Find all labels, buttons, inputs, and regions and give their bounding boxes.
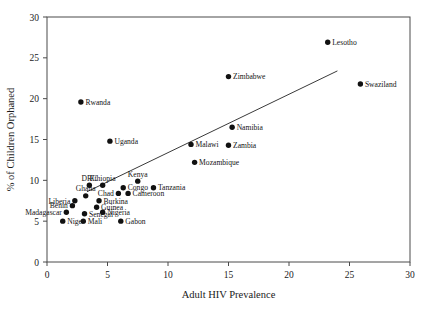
- point-label: Madagascar: [25, 208, 62, 217]
- point-marker: [107, 138, 112, 143]
- point-label: Lesotho: [332, 38, 357, 47]
- point-marker: [192, 160, 197, 165]
- point-marker: [82, 211, 87, 216]
- data-point: Mozambique: [192, 158, 240, 167]
- point-marker: [81, 218, 86, 223]
- data-point: Rwanda: [78, 98, 111, 107]
- point-marker: [226, 74, 231, 79]
- x-axis: 051015202530: [45, 262, 415, 280]
- point-label: Swaziland: [365, 80, 397, 89]
- point-label: Mozambique: [199, 158, 240, 167]
- point-label: Cameroon: [133, 189, 165, 198]
- point-label: Rwanda: [85, 98, 111, 107]
- data-point: Zimbabwe: [226, 72, 266, 81]
- point-label: Namibia: [237, 123, 264, 132]
- data-point: Uganda: [107, 137, 138, 146]
- point-marker: [78, 99, 83, 104]
- point-marker: [188, 142, 193, 147]
- data-point: Swaziland: [358, 80, 397, 89]
- point-marker: [100, 183, 105, 188]
- point-label: Zambia: [233, 141, 257, 150]
- point-marker: [100, 209, 105, 214]
- x-tick-label: 30: [405, 270, 415, 280]
- y-axis: 051015202530: [30, 13, 48, 268]
- data-point: Zambia: [226, 141, 257, 150]
- x-tick-label: 15: [224, 270, 234, 280]
- x-axis-title: Adult HIV Prevalence: [182, 289, 276, 300]
- point-marker: [125, 191, 130, 196]
- point-marker: [70, 203, 75, 208]
- y-tick-label: 10: [30, 176, 40, 186]
- regression-line: [87, 71, 337, 192]
- y-tick-label: 15: [30, 135, 40, 145]
- point-label: Ethiopia: [90, 174, 116, 183]
- point-marker: [118, 218, 123, 223]
- point-marker: [226, 143, 231, 148]
- point-label: Nigeria: [107, 208, 130, 217]
- x-tick-label: 0: [45, 270, 50, 280]
- point-marker: [325, 40, 330, 45]
- point-label: Mali: [88, 217, 102, 226]
- y-tick-label: 0: [34, 258, 39, 268]
- data-point: Lesotho: [325, 38, 357, 47]
- x-tick-label: 20: [284, 270, 294, 280]
- point-label: Gabon: [125, 217, 145, 226]
- y-tick-label: 20: [30, 94, 40, 104]
- chart-canvas: 051015202530 051015202530 LesothoSwazila…: [0, 0, 429, 316]
- point-label: Kenya: [128, 170, 148, 179]
- data-point: Namibia: [229, 123, 263, 132]
- data-point: Malawi: [188, 140, 218, 149]
- point-marker: [60, 218, 65, 223]
- point-label: Zimbabwe: [233, 72, 266, 81]
- trendline: [87, 71, 337, 192]
- point-label: Malawi: [195, 140, 218, 149]
- x-tick-label: 10: [163, 270, 173, 280]
- point-marker: [72, 198, 77, 203]
- x-tick-label: 5: [105, 270, 110, 280]
- y-tick-label: 5: [34, 217, 39, 227]
- point-marker: [121, 185, 126, 190]
- y-tick-label: 25: [30, 53, 40, 63]
- data-point: Kenya: [128, 170, 148, 184]
- point-label: Ghana: [76, 184, 96, 193]
- point-marker: [358, 81, 363, 86]
- point-label: Uganda: [114, 137, 138, 146]
- y-tick-label: 30: [30, 13, 40, 23]
- x-tick-label: 25: [345, 270, 355, 280]
- data-point: Ghana: [76, 184, 96, 198]
- point-marker: [83, 193, 88, 198]
- point-marker: [64, 209, 69, 214]
- scatter-chart: 051015202530 051015202530 LesothoSwazila…: [0, 0, 429, 316]
- y-axis-title: % of Children Orphaned: [5, 87, 16, 191]
- data-point: Gabon: [118, 217, 146, 226]
- point-marker: [116, 191, 121, 196]
- point-marker: [229, 125, 234, 130]
